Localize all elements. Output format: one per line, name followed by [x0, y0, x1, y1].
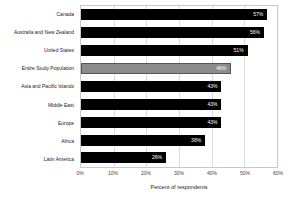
category-axis-labels: Canada Australia and New Zealand United … — [0, 5, 78, 168]
bar: 57% — [81, 9, 267, 20]
bar-row: 43% — [81, 99, 277, 110]
bar-value-label: 57% — [253, 12, 267, 17]
bar-row: 26% — [81, 152, 277, 163]
plot-area: 57% 56% 51% 46% 43% — [80, 5, 278, 168]
bar-value-label: 51% — [234, 48, 248, 53]
category-label: Asia and Pacific Islands — [0, 81, 78, 92]
x-tick-label: 50% — [240, 170, 250, 176]
bar: 26% — [81, 152, 166, 163]
bar-row: 43% — [81, 117, 277, 128]
x-tick-label: 10% — [108, 170, 118, 176]
bar-value-label: 38% — [191, 138, 205, 143]
category-label: Africa — [0, 135, 78, 146]
category-label: Europe — [0, 117, 78, 128]
bar-row: 46% — [81, 63, 277, 74]
bar-rows: 57% 56% 51% 46% 43% — [81, 6, 277, 167]
bar: 56% — [81, 27, 264, 38]
bar-value-label: 43% — [207, 84, 221, 89]
bar-row: 38% — [81, 135, 277, 146]
x-tick-label: 60% — [273, 170, 283, 176]
bar: 51% — [81, 45, 248, 56]
category-label: Middle East — [0, 99, 78, 110]
bar-value-label: 56% — [250, 30, 264, 35]
bar-row: 56% — [81, 27, 277, 38]
bar-value-label: 43% — [207, 102, 221, 107]
bar: 38% — [81, 135, 205, 146]
x-axis: 0% 10% 20% 30% 40% 50% 60% — [80, 168, 278, 180]
bar-row: 57% — [81, 9, 277, 20]
category-label: Canada — [0, 9, 78, 20]
bar-row: 51% — [81, 45, 277, 56]
x-tick-label: 40% — [207, 170, 217, 176]
x-axis-title: Percent of respondents — [80, 184, 278, 191]
x-tick-label: 20% — [141, 170, 151, 176]
bar-value-label: 46% — [216, 66, 230, 71]
bar-row: 43% — [81, 81, 277, 92]
bar-chart: Canada Australia and New Zealand United … — [0, 0, 298, 206]
bar: 43% — [81, 81, 221, 92]
bar-value-label: 43% — [207, 120, 221, 125]
bar: 43% — [81, 117, 221, 128]
category-label: Entire Study Population — [0, 63, 78, 74]
category-label: United States — [0, 45, 78, 56]
category-label: Latin America — [0, 153, 78, 164]
category-label: Australia and New Zealand — [0, 27, 78, 38]
bar: 43% — [81, 99, 221, 110]
bar-value-label: 26% — [152, 155, 166, 160]
x-tick-label: 30% — [174, 170, 184, 176]
x-tick-label: 0% — [76, 170, 83, 176]
bar-highlighted: 46% — [81, 63, 231, 74]
